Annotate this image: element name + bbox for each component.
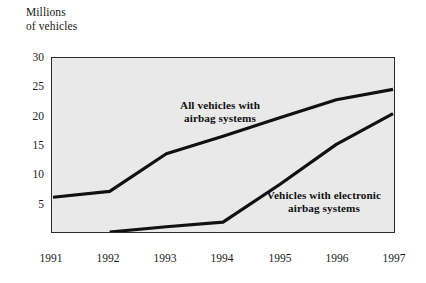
x-tick-1991: 1991 <box>40 252 63 264</box>
chart-figure: Millions of vehicles 30 25 20 15 10 5 Al… <box>0 0 426 283</box>
y-tick-30: 30 <box>7 51 51 63</box>
x-tick-1992: 1992 <box>97 252 120 264</box>
x-tick-1996: 1996 <box>326 252 349 264</box>
x-tick-1993: 1993 <box>154 252 177 264</box>
series-label-all-vehicles: All vehicles with airbag systems <box>160 99 280 125</box>
y-tick-20: 20 <box>7 110 51 122</box>
y-tick-10: 10 <box>7 168 51 180</box>
series-label-electronic-airbag: Vehicles with electronic airbag systems <box>256 189 392 215</box>
y-tick-15: 15 <box>7 139 51 151</box>
y-axis-tick-labels: 30 25 20 15 10 5 <box>0 0 51 283</box>
y-tick-25: 25 <box>7 80 51 92</box>
x-tick-1995: 1995 <box>269 252 292 264</box>
y-tick-5: 5 <box>7 198 51 210</box>
x-tick-1997: 1997 <box>383 252 406 264</box>
x-tick-1994: 1994 <box>211 252 234 264</box>
